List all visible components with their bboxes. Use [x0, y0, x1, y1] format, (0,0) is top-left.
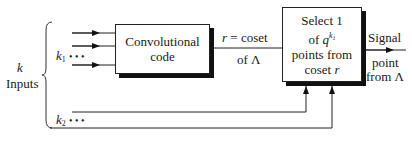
point-label: point	[372, 55, 399, 70]
inputs-brace	[42, 22, 52, 128]
conv-line1: Convolutional	[125, 34, 199, 49]
k1-sub: 1	[62, 55, 66, 64]
conv-line2: code	[150, 49, 175, 64]
k2-lower-line	[50, 86, 332, 128]
select-line3: points from	[292, 47, 352, 62]
inputs-text-label: Inputs	[6, 76, 39, 91]
k2-dots: • • •	[69, 115, 85, 126]
select-line4: coset r	[304, 62, 339, 77]
inputs-k-label: k	[17, 60, 23, 75]
select-line1: Select 1	[301, 13, 343, 28]
select-points-block: Select 1 of qk1 points from coset r	[282, 7, 362, 82]
q-exponent: k1	[329, 31, 336, 40]
r-coset-text: = coset	[227, 30, 268, 45]
k1-label: k1 • • •	[56, 48, 85, 67]
k2-label: k2 • • •	[56, 112, 85, 131]
convolutional-code-block: Convolutional code	[115, 24, 210, 74]
signal-label: Signal	[368, 30, 401, 45]
from-lambda-label: from Λ	[366, 69, 404, 84]
select-line2: of qk1	[308, 28, 335, 47]
r-coset-label: r = coset	[222, 30, 268, 45]
k1-dots: • • •	[69, 51, 85, 62]
k2-sub: 2	[62, 119, 66, 128]
of-lambda-label: of Λ	[237, 52, 261, 67]
k2-upper-line	[72, 86, 306, 112]
